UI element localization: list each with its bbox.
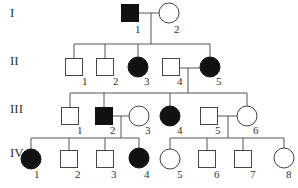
unaffected-female-symbol-IV-8 <box>274 148 294 168</box>
individual-number-label: 2 <box>110 124 116 136</box>
unaffected-female-symbol-III-3 <box>129 106 149 126</box>
individual-number-label: 7 <box>250 168 256 180</box>
unaffected-male-symbol-IV-6 <box>199 151 216 168</box>
individual-number-label: 5 <box>215 124 221 136</box>
individual-number-label: 5 <box>216 75 222 87</box>
pedigree-lines <box>31 13 284 150</box>
affected-male-symbol-III-2 <box>96 108 113 125</box>
affected-female-symbol-II-5 <box>200 57 220 77</box>
unaffected-male-symbol-II-2 <box>97 59 114 76</box>
individual-number-label: 6 <box>253 124 259 136</box>
individual-number-label: 4 <box>144 168 150 180</box>
affected-female-symbol-IV-1 <box>21 149 41 169</box>
affected-female-symbol-IV-4 <box>129 148 149 168</box>
generation-label: IV <box>10 145 24 161</box>
unaffected-female-symbol-III-6 <box>237 106 257 126</box>
individual-number-label: 1 <box>77 124 83 136</box>
individual-number-label: 2 <box>113 75 119 87</box>
pedigree-symbols <box>21 3 294 169</box>
pedigree-diagram <box>0 0 298 188</box>
generation-label: I <box>10 5 14 21</box>
unaffected-male-symbol-III-5 <box>201 108 218 125</box>
individual-number-label: 5 <box>177 168 183 180</box>
unaffected-male-symbol-II-1 <box>66 59 83 76</box>
affected-female-symbol-II-3 <box>128 57 148 77</box>
individual-number-label: 1 <box>34 168 40 180</box>
individual-number-label: 3 <box>111 168 117 180</box>
affected-female-symbol-III-4 <box>160 106 180 126</box>
unaffected-male-symbol-IV-7 <box>235 151 252 168</box>
individual-number-label: 1 <box>82 75 88 87</box>
generation-label: III <box>10 101 23 117</box>
unaffected-male-symbol-II-4 <box>163 59 180 76</box>
unaffected-male-symbol-IV-3 <box>97 151 114 168</box>
individual-number-label: 3 <box>144 75 150 87</box>
individual-number-label: 1 <box>135 23 141 35</box>
unaffected-female-symbol-I-2 <box>159 3 179 23</box>
unaffected-male-symbol-III-1 <box>62 108 79 125</box>
individual-number-label: 4 <box>177 124 183 136</box>
unaffected-female-symbol-IV-5 <box>160 149 180 169</box>
individual-number-label: 2 <box>75 168 81 180</box>
individual-number-label: 4 <box>177 75 183 87</box>
unaffected-male-symbol-IV-2 <box>61 151 78 168</box>
generation-label: II <box>10 53 19 69</box>
individual-number-label: 3 <box>145 124 151 136</box>
individual-number-label: 8 <box>286 168 292 180</box>
individual-number-label: 6 <box>214 168 220 180</box>
individual-number-label: 2 <box>174 23 180 35</box>
affected-male-symbol-I-1 <box>122 5 139 22</box>
